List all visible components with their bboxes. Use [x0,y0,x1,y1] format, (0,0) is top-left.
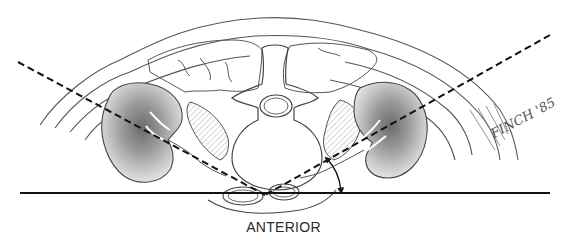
vertebra [232,45,322,190]
anterior-label: ANTERIOR [0,219,567,235]
great-vessels [208,184,336,213]
anatomy-cross-section-diagram [0,0,567,244]
psoas-muscles [187,100,360,160]
